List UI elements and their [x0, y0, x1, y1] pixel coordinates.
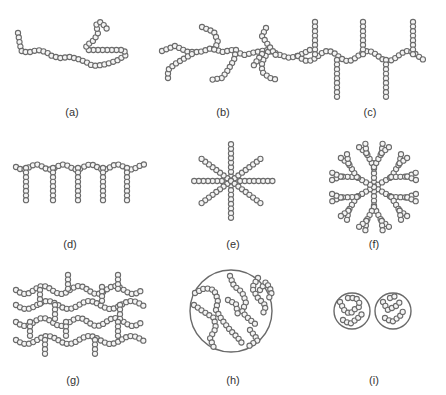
panel-f-dendrimer	[330, 141, 419, 233]
panel-label-i: (i)	[369, 374, 379, 386]
panel-label-d: (d)	[63, 238, 76, 250]
panel-label-f: (f)	[369, 238, 379, 250]
panel-b-branched-polymer	[159, 24, 312, 82]
panel-label-b: (b)	[216, 106, 229, 118]
panel-label-e: (e)	[226, 238, 239, 250]
panel-c-graft-polymer	[295, 19, 425, 99]
panel-label-h: (h)	[226, 374, 239, 386]
panel-label-a: (a)	[65, 106, 78, 118]
panel-d-comb-polymer	[13, 162, 146, 203]
panel-e-star-polymer	[192, 142, 275, 221]
panel-g-crosslinked-network	[13, 272, 146, 356]
panel-a-linear-polymer	[15, 20, 128, 69]
panel-i-nanogels	[334, 293, 411, 329]
panel-label-g: (g)	[66, 374, 79, 386]
panel-h-microgel	[190, 270, 274, 352]
polymer-architectures-figure	[0, 0, 446, 395]
panel-label-c: (c)	[364, 106, 377, 118]
